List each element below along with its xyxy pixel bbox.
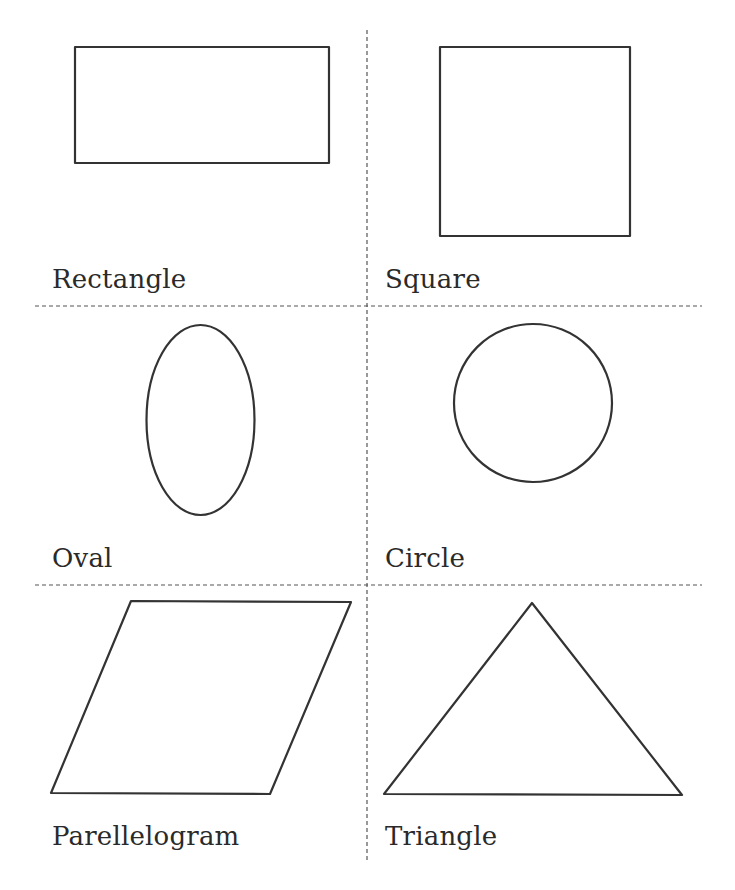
triangle-shape: [384, 603, 682, 795]
label-parallelogram: Parellelogram: [52, 823, 239, 849]
parallelogram-shape: [51, 601, 351, 794]
oval-shape: [147, 325, 255, 515]
label-triangle: Triangle: [385, 823, 497, 849]
label-circle: Circle: [385, 545, 465, 571]
label-oval: Oval: [52, 545, 113, 571]
cut-lines: [35, 30, 702, 863]
label-square: Square: [385, 266, 481, 292]
square-shape: [440, 47, 630, 236]
rectangle-shape: [75, 47, 329, 163]
circle-shape: [454, 324, 612, 482]
shapes-worksheet: [0, 0, 735, 890]
label-rectangle: Rectangle: [52, 266, 186, 292]
